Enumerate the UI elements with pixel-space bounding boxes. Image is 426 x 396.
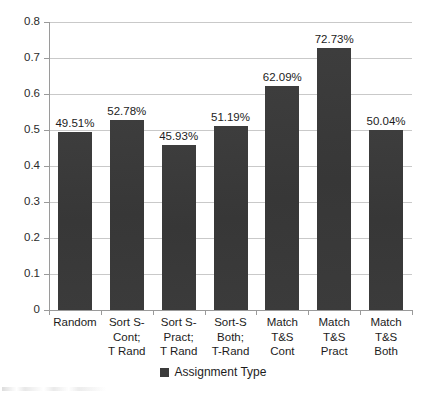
x-axis-line <box>49 310 412 311</box>
y-tick-label-wrap: 0.2 <box>0 232 40 243</box>
x-tick-mark <box>308 310 309 315</box>
x-category-line: Sort S- <box>151 315 207 330</box>
y-tick-label-wrap: 0.1 <box>0 268 40 279</box>
x-category-line: T&S <box>306 330 362 345</box>
bar[interactable] <box>265 86 299 310</box>
x-category-line: T&S <box>358 330 414 345</box>
y-tick-label: 0.2 <box>0 232 40 243</box>
bar[interactable] <box>162 145 196 310</box>
y-tick-label: 0.1 <box>0 268 40 279</box>
x-tick-mark <box>256 310 257 315</box>
y-tick-label-wrap: 0.7 <box>0 52 40 63</box>
x-tick-mark <box>49 310 50 315</box>
y-tick-label-wrap: 0 <box>0 304 40 315</box>
x-category-label: Sort S-Pract;T Rand <box>151 315 207 359</box>
plot-area <box>49 22 412 310</box>
bar-value-label: 62.09% <box>247 71 317 83</box>
bar-value-label: 49.51% <box>40 117 110 129</box>
bar[interactable] <box>58 132 92 310</box>
x-tick-mark <box>153 310 154 315</box>
x-tick-mark <box>360 310 361 315</box>
x-category-label: MatchT&SCont <box>254 315 310 359</box>
bar[interactable] <box>214 126 248 310</box>
x-category-line: Pract; <box>151 330 207 345</box>
legend-swatch-icon <box>160 368 169 377</box>
bar[interactable] <box>369 130 403 310</box>
y-tick-label: 0.3 <box>0 196 40 207</box>
y-tick-label: 0.4 <box>0 160 40 171</box>
x-category-label: Sort-SBoth;T-Rand <box>203 315 259 359</box>
x-category-line: T-Rand <box>203 344 259 359</box>
y-tick-label-wrap: 0.8 <box>0 16 40 27</box>
x-category-line: Both <box>358 344 414 359</box>
y-tick-label: 0.7 <box>0 52 40 63</box>
x-category-line: Both; <box>203 330 259 345</box>
x-category-line: T&S <box>254 330 310 345</box>
x-category-line: Match <box>306 315 362 330</box>
x-category-line: Match <box>358 315 414 330</box>
legend-label: Assignment Type <box>175 366 267 378</box>
x-category-label: MatchT&SPract <box>306 315 362 359</box>
x-category-line: T Rand <box>99 344 155 359</box>
x-category-label: Sort S-Cont;T Rand <box>99 315 155 359</box>
x-category-line: Random <box>47 315 103 330</box>
bar-value-label: 50.04% <box>351 115 421 127</box>
x-category-line: T Rand <box>151 344 207 359</box>
x-tick-mark <box>101 310 102 315</box>
y-tick-label-wrap: 0.5 <box>0 124 40 135</box>
x-tick-mark <box>412 310 413 315</box>
y-tick-label: 0.8 <box>0 16 40 27</box>
bar-value-label: 52.78% <box>92 105 162 117</box>
x-category-line: Sort S- <box>99 315 155 330</box>
x-category-label: MatchT&SBoth <box>358 315 414 359</box>
bar-value-label: 72.73% <box>299 33 369 45</box>
bar[interactable] <box>110 120 144 310</box>
x-category-line: Match <box>254 315 310 330</box>
bar-value-label: 45.93% <box>144 130 214 142</box>
x-category-label: Random <box>47 315 103 330</box>
x-category-line: Pract <box>306 344 362 359</box>
y-tick-label-wrap: 0.4 <box>0 160 40 171</box>
chart-legend: Assignment Type <box>0 366 426 378</box>
bar-value-label: 51.19% <box>196 111 266 123</box>
y-tick-label-wrap: 0.6 <box>0 88 40 99</box>
y-tick-label: 0 <box>0 304 40 315</box>
scan-artifact <box>2 387 106 391</box>
y-tick-label: 0.5 <box>0 124 40 135</box>
bar-chart: 0.80.70.60.50.40.30.20.10 49.51%52.78%45… <box>0 0 426 396</box>
x-tick-mark <box>205 310 206 315</box>
y-tick-label: 0.6 <box>0 88 40 99</box>
y-tick-label-wrap: 0.3 <box>0 196 40 207</box>
x-category-line: Cont <box>254 344 310 359</box>
x-category-line: Sort-S <box>203 315 259 330</box>
bar[interactable] <box>317 48 351 310</box>
x-category-line: Cont; <box>99 330 155 345</box>
